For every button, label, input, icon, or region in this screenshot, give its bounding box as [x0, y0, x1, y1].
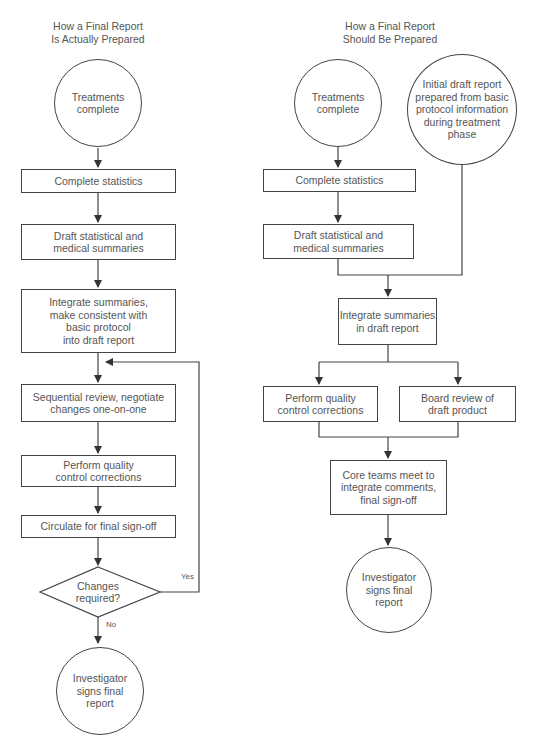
- right-step-quality-control: Perform quality control corrections: [263, 386, 378, 422]
- right-start-circle: Treatments complete: [294, 59, 382, 147]
- left-step-integrate-summaries: Integrate summaries, make consistent wit…: [21, 289, 176, 353]
- yes-label: Yes: [181, 572, 194, 581]
- right-step-draft-summaries: Draft statistical and medical summaries: [263, 224, 414, 259]
- left-step-quality-control: Perform quality control corrections: [21, 455, 176, 487]
- right-step-complete-statistics: Complete statistics: [263, 169, 416, 192]
- left-decision-changes-required: Changes required?: [58, 575, 138, 609]
- left-step-complete-statistics: Complete statistics: [21, 169, 176, 193]
- left-end-circle: Investigator signs final report: [56, 647, 144, 735]
- left-title: How a Final Report Is Actually Prepared: [18, 20, 178, 45]
- left-step-sequential-review: Sequential review, negotiate changes one…: [21, 384, 176, 422]
- right-title: How a Final Report Should Be Prepared: [310, 20, 470, 45]
- left-step-circulate: Circulate for final sign-off: [21, 515, 176, 538]
- right-initial-draft-circle: Initial draft report prepared from basic…: [407, 54, 517, 165]
- left-step-draft-summaries: Draft statistical and medical summaries: [21, 224, 176, 260]
- right-step-board-review: Board review of draft product: [399, 386, 516, 422]
- left-start-circle: Treatments complete: [54, 59, 142, 147]
- no-label: No: [106, 620, 116, 629]
- right-end-circle: Investigator signs final report: [346, 547, 432, 633]
- right-step-integrate-summaries: Integrate summaries in draft report: [338, 298, 437, 345]
- right-step-core-teams-meet: Core teams meet to integrate comments, f…: [330, 460, 447, 515]
